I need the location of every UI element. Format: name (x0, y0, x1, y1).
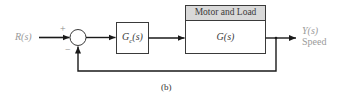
input-label-text: R(s) (15, 31, 32, 42)
output-label-text: Y(s) (302, 25, 318, 36)
figure-caption: (b) (161, 83, 172, 92)
output-description: Speed (302, 37, 326, 47)
output-label: Y(s) (302, 26, 318, 36)
plant-label: G(s) (185, 32, 266, 42)
summing-junction (70, 30, 86, 46)
plant-header-label: Motor and Load (185, 8, 266, 18)
controller-arg: (s) (132, 31, 143, 42)
input-label: R(s) (15, 32, 32, 42)
plus-sign: + (60, 24, 66, 34)
block-diagram: R(s) + − Gc(s) Motor and Load G(s) Y(s) … (0, 0, 342, 99)
controller-label: Gc(s) (122, 32, 143, 45)
minus-sign: − (65, 45, 71, 55)
